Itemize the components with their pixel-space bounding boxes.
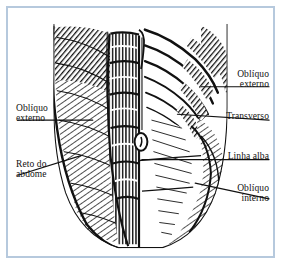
label-obliquo-externo-right: Oblíquo externo: [237, 70, 269, 89]
label-obliquo-externo-left: Oblíquo externo: [16, 104, 48, 123]
label-obliquo-interno: Oblíquo interno: [237, 184, 269, 203]
label-line-2: externo: [16, 114, 48, 124]
label-line-2: abdome: [16, 170, 47, 180]
label-line-2: interno: [237, 194, 269, 204]
abdominal-muscle-illustration: [8, 8, 273, 256]
umbigo: [135, 133, 148, 151]
label-line-2: externo: [237, 80, 269, 90]
label-line-1: Transverso: [226, 112, 269, 122]
label-linha-alba: Linha alba: [228, 152, 269, 162]
label-transverso: Transverso: [226, 112, 269, 122]
torso-body: [47, 18, 234, 254]
figure-frame: Oblíquo externo Transverso Linha alba Ob…: [6, 6, 275, 258]
label-reto-do-abdome: Reto do abdome: [16, 160, 47, 179]
label-line-1: Linha alba: [228, 152, 269, 162]
